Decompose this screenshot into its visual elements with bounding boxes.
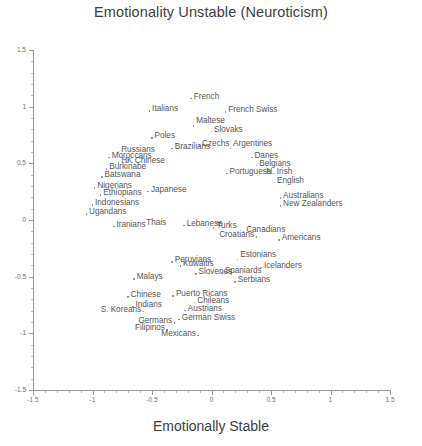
x-tick-minor xyxy=(366,391,367,393)
data-point-label: Austrians xyxy=(188,304,222,313)
x-tick-minor xyxy=(307,391,308,393)
data-point-label: English xyxy=(277,176,304,185)
data-point-marker xyxy=(221,272,223,274)
data-point-label: Thais xyxy=(146,218,166,227)
x-tick-minor xyxy=(176,391,177,393)
data-point-label: New Zealanders xyxy=(283,199,343,208)
data-point-marker xyxy=(226,173,228,175)
x-tick-minor xyxy=(378,391,379,393)
x-tick-mark xyxy=(390,391,391,395)
x-tick-label: 1.5 xyxy=(375,396,405,403)
x-tick-minor xyxy=(283,391,284,393)
x-tick-minor xyxy=(200,391,201,393)
data-point-label: Maltese xyxy=(196,116,225,125)
x-tick-minor xyxy=(81,391,82,393)
y-tick-label: -1.5 xyxy=(0,386,26,393)
data-point-label: Serbians xyxy=(238,275,270,284)
data-point-marker xyxy=(101,176,103,178)
data-point-label: Portuguese xyxy=(229,167,271,176)
data-point-label: Americans xyxy=(282,233,321,242)
data-point-label: Mexicans xyxy=(161,329,196,338)
x-tick-label: 0 xyxy=(197,396,227,403)
x-tick-minor xyxy=(259,391,260,393)
x-tick-minor xyxy=(116,391,117,393)
x-axis-label: Emotionally Stable xyxy=(0,418,422,434)
x-tick-minor xyxy=(342,391,343,393)
data-point-label: Croatians xyxy=(219,230,254,239)
data-point-marker xyxy=(193,125,195,127)
data-point-label: Icelanders xyxy=(264,261,302,270)
data-point-label: Turks xyxy=(216,221,236,230)
data-point-marker xyxy=(195,273,197,275)
x-tick-label: -1.5 xyxy=(18,396,48,403)
data-point-marker xyxy=(171,261,173,263)
x-tick-mark xyxy=(152,391,153,395)
data-point-label: Ugandans xyxy=(89,207,126,216)
x-tick-label: 1 xyxy=(316,396,346,403)
data-point-marker xyxy=(278,239,280,241)
data-point-label: Batswana xyxy=(105,170,141,179)
x-tick-label: -0.5 xyxy=(137,396,167,403)
x-tick-minor xyxy=(45,391,46,393)
x-tick-label: 0.5 xyxy=(256,396,286,403)
scatter-plot-figure: Emotionality Unstable (Neuroticism) 1.51… xyxy=(0,0,422,446)
data-point-marker xyxy=(127,296,129,298)
data-point-label: Brazilians xyxy=(175,142,211,151)
data-point-marker xyxy=(149,110,151,112)
data-point-label: Poles xyxy=(155,131,175,140)
data-point-marker xyxy=(151,137,153,139)
x-tick-minor xyxy=(69,391,70,393)
x-tick-minor xyxy=(188,391,189,393)
y-tick-label: -1 xyxy=(0,329,26,336)
data-point-label: Malays xyxy=(137,272,163,281)
data-point-label: German Swiss xyxy=(182,313,235,322)
data-point-label: Slovaks xyxy=(214,125,243,134)
y-tick-label: 1.5 xyxy=(0,46,26,53)
data-point-marker xyxy=(174,322,176,324)
x-tick-minor xyxy=(247,391,248,393)
data-point-marker xyxy=(172,295,174,297)
x-tick-mark xyxy=(93,391,94,395)
data-point-label: S. Koreans xyxy=(101,305,142,314)
data-point-marker xyxy=(234,281,236,283)
data-point-marker xyxy=(92,204,94,206)
data-point-marker xyxy=(280,197,282,199)
y-tick-label: 1 xyxy=(0,103,26,110)
data-point-marker xyxy=(108,157,110,159)
x-tick-minor xyxy=(295,391,296,393)
x-tick-minor xyxy=(235,391,236,393)
x-tick-minor xyxy=(319,391,320,393)
x-tick-minor xyxy=(223,391,224,393)
x-tick-mark xyxy=(271,391,272,395)
x-tick-mark xyxy=(33,391,34,395)
x-tick-minor xyxy=(354,391,355,393)
data-point-label: French xyxy=(194,92,219,101)
y-tick-label: 0 xyxy=(0,216,26,223)
data-point-label: Spaniards xyxy=(225,266,262,275)
y-tick-label: 0.5 xyxy=(0,159,26,166)
data-point-label: Estonians xyxy=(240,250,276,259)
x-tick-label: -1 xyxy=(78,396,108,403)
data-point-marker xyxy=(86,213,88,215)
x-tick-minor xyxy=(164,391,165,393)
x-tick-minor xyxy=(128,391,129,393)
data-point-label: Argentines xyxy=(233,139,272,148)
data-point-label: Ethiopians xyxy=(103,188,141,197)
y-tick-label: -0.5 xyxy=(0,273,26,280)
data-point-label: Indonesians xyxy=(95,198,139,207)
data-point-label: Iranians xyxy=(116,220,145,229)
x-tick-minor xyxy=(104,391,105,393)
data-point-label: Chinese xyxy=(131,290,161,299)
x-tick-minor xyxy=(140,391,141,393)
x-tick-mark xyxy=(331,391,332,395)
x-tick-mark xyxy=(212,391,213,395)
data-point-marker xyxy=(133,278,135,280)
x-tick-minor xyxy=(57,391,58,393)
data-point-label: Japanese xyxy=(151,185,187,194)
data-point-marker xyxy=(280,205,282,207)
data-point-marker xyxy=(251,157,253,159)
data-point-label: N. Irish xyxy=(266,167,292,176)
chart-title: Emotionality Unstable (Neuroticism) xyxy=(0,4,422,20)
data-point-label: Italians xyxy=(152,104,178,113)
data-point-marker xyxy=(180,265,182,267)
